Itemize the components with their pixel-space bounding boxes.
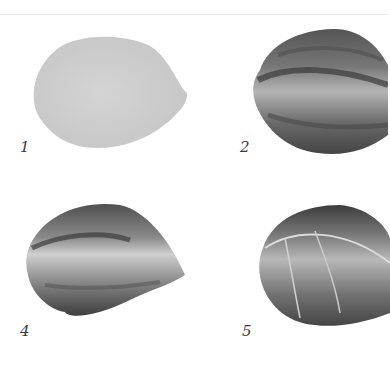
petal-stage-4 xyxy=(20,200,190,325)
petal-stage-5 xyxy=(255,203,390,328)
top-rule xyxy=(0,14,386,15)
petal-stage-2 xyxy=(248,25,388,160)
stage-label-4: 4 xyxy=(20,322,30,340)
stage-label-1: 1 xyxy=(20,138,30,156)
petal-stage-1 xyxy=(28,30,198,155)
stage-label-2: 2 xyxy=(240,138,250,156)
stage-label-5: 5 xyxy=(242,322,252,340)
